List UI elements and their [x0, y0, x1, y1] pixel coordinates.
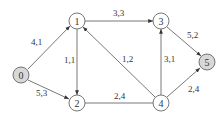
edge-label-0-2: 5,3 [36, 88, 48, 98]
node-2-label: 2 [75, 98, 80, 109]
node-5: 5 [199, 54, 215, 70]
edge-label-4-5: 2,4 [188, 84, 200, 94]
node-2: 2 [69, 95, 85, 111]
edge-4-1 [83, 27, 155, 97]
edge-label-3-5: 5,2 [187, 30, 198, 40]
node-3-label: 3 [159, 16, 164, 27]
node-5-label: 5 [205, 57, 210, 68]
node-0: 0 [13, 67, 29, 83]
edge-0-2 [28, 80, 69, 99]
network-diagram: 4,1 5,3 1,1 3,3 1,2 2,4 3,1 5,2 2,4 0 1 … [0, 0, 224, 125]
edge-label-1-3: 3,3 [113, 8, 125, 18]
node-4-label: 4 [159, 98, 164, 109]
edge-label-4-3: 3,1 [164, 54, 175, 64]
node-1-label: 1 [75, 16, 80, 27]
node-3: 3 [153, 13, 169, 29]
node-1: 1 [69, 13, 85, 29]
edge-label-2-4: 2,4 [114, 91, 126, 101]
node-0-label: 0 [19, 70, 24, 81]
edge-label-1-2: 1,1 [64, 55, 75, 65]
edge-label-0-1: 4,1 [31, 37, 42, 47]
edge-label-4-1: 1,2 [122, 54, 133, 64]
node-4: 4 [153, 95, 169, 111]
